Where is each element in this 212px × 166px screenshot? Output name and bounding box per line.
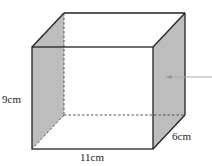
- left-shaded-face: [32, 13, 64, 149]
- cuboid-diagram: 9cm 11cm 6cm: [0, 0, 212, 166]
- depth-label: 6cm: [172, 130, 191, 142]
- right-shaded-face: [153, 13, 185, 149]
- height-label: 9cm: [2, 93, 21, 105]
- length-label: 11cm: [80, 151, 104, 163]
